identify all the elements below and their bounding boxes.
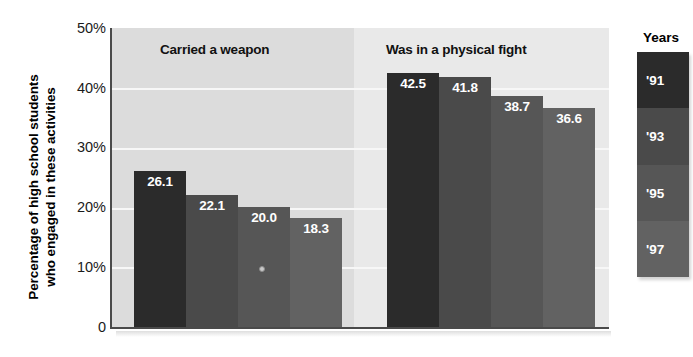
bar-physical-fight-97[interactable]: 36.6 [543, 108, 595, 327]
y-axis-title-line-1: Percentage of high school students [25, 74, 42, 299]
bar-carried-a-weapon-95[interactable]: 20.0 [238, 207, 290, 327]
plot-area: Carried a weapon Was in a physical fight… [110, 28, 609, 329]
legend-item-label: '95 [646, 185, 664, 200]
y-tick-30: 30% [60, 139, 106, 155]
y-tick-0: 0 [60, 319, 106, 335]
legend-item-95[interactable]: '95 [637, 165, 689, 221]
bar-physical-fight-93[interactable]: 41.8 [439, 77, 491, 327]
legend-swatch-box: '91 '93 '95 '97 [637, 52, 689, 277]
legend-title: Years [643, 30, 689, 45]
bar-chart-figure: Percentage of high school students who e… [0, 0, 693, 357]
gridline-40 [112, 88, 609, 90]
bar-carried-a-weapon-91[interactable]: 26.1 [134, 171, 186, 327]
bar-value-label: 18.3 [290, 221, 342, 236]
bar-physical-fight-91[interactable]: 42.5 [387, 73, 439, 327]
bar-value-label: 38.7 [491, 99, 543, 114]
group-title-physical-fight: Was in a physical fight [386, 42, 526, 57]
legend-item-label: '97 [646, 241, 664, 256]
y-tick-40: 40% [60, 80, 106, 96]
y-axis-tick-labels: 50% 40% 30% 20% 10% 0 [54, 0, 106, 357]
legend-item-91[interactable]: '91 [637, 52, 689, 108]
y-tick-20: 20% [60, 199, 106, 215]
bar-value-label: 41.8 [439, 80, 491, 95]
legend-item-label: '91 [646, 73, 664, 88]
bar-value-label: 20.0 [238, 210, 290, 225]
plot-drop-shadow [116, 331, 611, 337]
bar-carried-a-weapon-93[interactable]: 22.1 [186, 195, 238, 327]
bar-value-label: 26.1 [134, 174, 186, 189]
legend-item-93[interactable]: '93 [637, 108, 689, 164]
bar-carried-a-weapon-97[interactable]: 18.3 [290, 218, 342, 327]
y-tick-50: 50% [60, 20, 106, 36]
scan-speck-artifact [259, 266, 265, 272]
legend: Years '91 '93 '95 '97 [637, 30, 689, 277]
y-tick-10: 10% [60, 259, 106, 275]
bar-physical-fight-95[interactable]: 38.7 [491, 96, 543, 327]
legend-item-97[interactable]: '97 [637, 221, 689, 277]
bar-value-label: 36.6 [543, 111, 595, 126]
group-title-carried-a-weapon: Carried a weapon [160, 42, 269, 57]
legend-item-label: '93 [646, 129, 664, 144]
bar-value-label: 42.5 [387, 76, 439, 91]
bar-value-label: 22.1 [186, 198, 238, 213]
